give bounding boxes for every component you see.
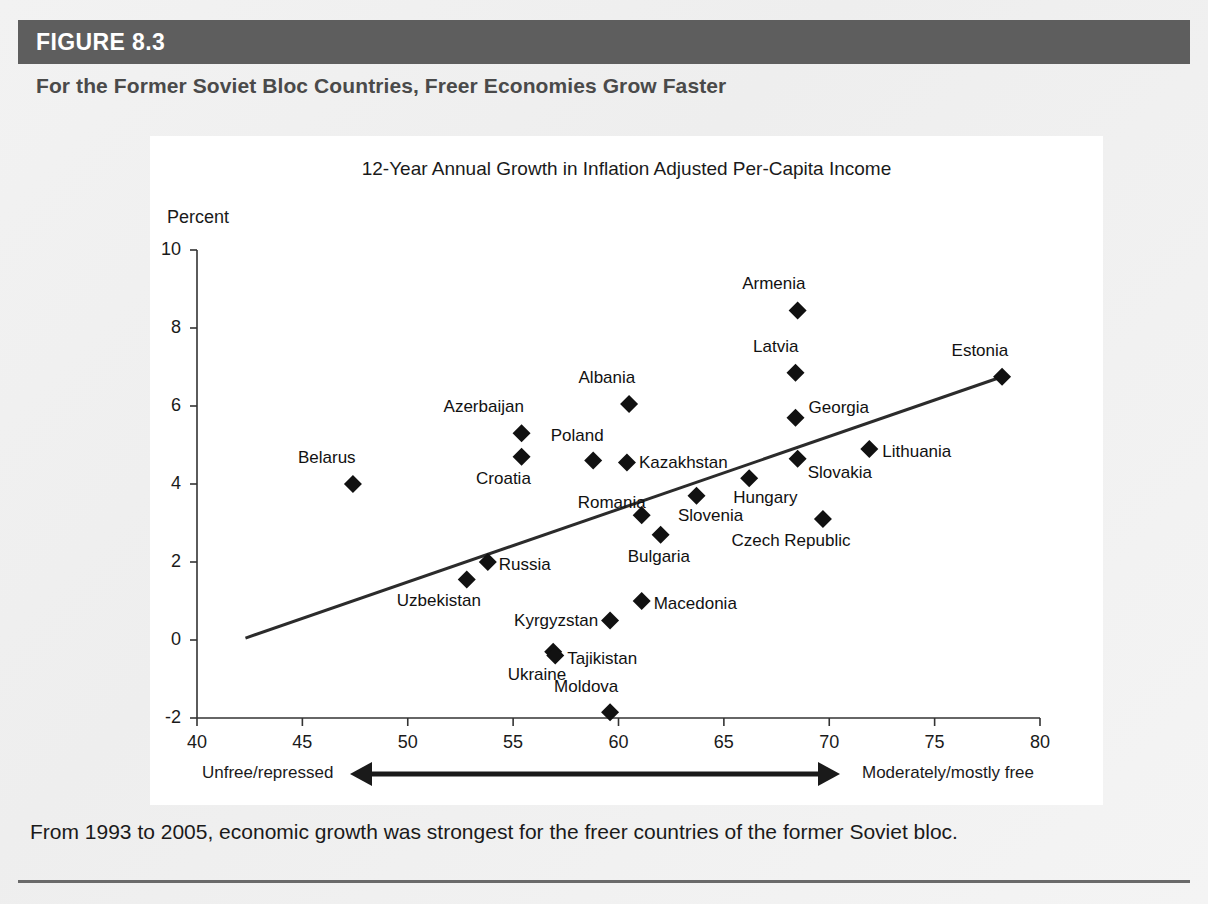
axis-direction-right: Moderately/mostly free: [862, 763, 1034, 783]
data-point-label: Kazakhstan: [639, 453, 728, 473]
data-point-marker: [344, 475, 362, 493]
data-point-label: Albania: [579, 368, 636, 388]
x-tick-label: 45: [282, 732, 322, 753]
chart-panel: 12-Year Annual Growth in Inflation Adjus…: [150, 136, 1103, 805]
data-point-label: Poland: [551, 426, 604, 446]
x-tick-label: 50: [388, 732, 428, 753]
y-tick-label: 6: [147, 395, 181, 416]
data-point-label: Macedonia: [654, 594, 737, 614]
data-point-label: Croatia: [476, 469, 531, 489]
data-point-marker: [618, 454, 636, 472]
scatter-plot-svg: [150, 136, 1103, 805]
data-point-marker: [860, 440, 878, 458]
data-point-label: Belarus: [298, 448, 356, 468]
data-point-marker: [740, 469, 758, 487]
x-tick-label: 60: [599, 732, 639, 753]
data-point-marker: [633, 592, 651, 610]
data-point-label: Armenia: [742, 274, 805, 294]
y-tick-label: 10: [147, 239, 181, 260]
data-point-label: Kyrgyzstan: [514, 611, 598, 631]
axis-direction-left: Unfree/repressed: [202, 763, 333, 783]
y-tick-label: -2: [147, 707, 181, 728]
y-tick-label: 8: [147, 317, 181, 338]
x-tick-label: 75: [915, 732, 955, 753]
y-tick-label: 4: [147, 473, 181, 494]
figure-title: For the Former Soviet Bloc Countries, Fr…: [36, 74, 1136, 98]
data-point-marker: [652, 526, 670, 544]
data-point-marker: [787, 409, 805, 427]
data-point-label: Slovakia: [808, 463, 872, 483]
data-point-label: Lithuania: [882, 442, 951, 462]
data-point-label: Romania: [578, 493, 646, 513]
data-point-label: Tajikistan: [567, 649, 637, 669]
data-point-label: Azerbaijan: [444, 397, 524, 417]
data-point-marker: [789, 301, 807, 319]
plot-area: [150, 136, 1103, 805]
data-point-marker: [620, 395, 638, 413]
data-point-label: Georgia: [809, 398, 869, 418]
x-tick-label: 40: [177, 732, 217, 753]
data-point-marker: [458, 571, 476, 589]
figure-page: FIGURE 8.3 For the Former Soviet Bloc Co…: [0, 0, 1208, 904]
data-point-marker: [513, 448, 531, 466]
data-point-marker: [814, 510, 832, 528]
x-tick-label: 80: [1020, 732, 1060, 753]
y-tick-label: 2: [147, 551, 181, 572]
figure-number-label: FIGURE 8.3: [18, 29, 165, 56]
freedom-axis-arrow: [350, 762, 840, 786]
data-point-label: Slovenia: [678, 506, 743, 526]
data-point-marker: [513, 424, 531, 442]
data-point-marker: [687, 487, 705, 505]
data-point-label: Estonia: [952, 341, 1009, 361]
figure-caption: From 1993 to 2005, economic growth was s…: [30, 820, 1170, 844]
data-point-label: Czech Republic: [731, 531, 850, 551]
data-point-label: Latvia: [753, 337, 798, 357]
data-point-marker: [993, 368, 1011, 386]
x-tick-label: 70: [809, 732, 849, 753]
data-point-label: Bulgaria: [628, 547, 690, 567]
data-point-marker: [789, 450, 807, 468]
data-point-marker: [601, 612, 619, 630]
x-tick-label: 65: [704, 732, 744, 753]
data-point-label: Russia: [499, 555, 551, 575]
data-point-label: Uzbekistan: [397, 591, 481, 611]
y-tick-label: 0: [147, 629, 181, 650]
bottom-divider: [18, 880, 1190, 883]
x-tick-label: 55: [493, 732, 533, 753]
data-point-label: Moldova: [554, 677, 618, 697]
data-point-marker: [787, 364, 805, 382]
figure-number-bar: FIGURE 8.3: [18, 20, 1190, 64]
data-point-marker: [584, 452, 602, 470]
